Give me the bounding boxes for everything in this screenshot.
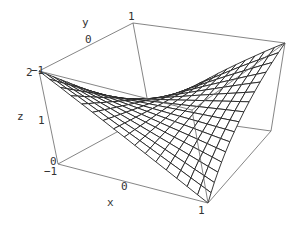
y-tick-0: 0 — [85, 33, 92, 46]
x-tick-0: 0 — [121, 180, 128, 193]
x-tick-minus1: −1 — [44, 165, 57, 178]
saddle-surface — [39, 43, 285, 203]
x-axis-label: x — [107, 196, 114, 209]
z-tick-2: 2 — [26, 66, 33, 79]
z-tick-1: 1 — [38, 114, 45, 127]
x-tick-1: 1 — [198, 204, 205, 217]
z-axis-label: z — [17, 110, 24, 123]
y-tick-1: 1 — [128, 10, 135, 23]
y-axis-label: y — [82, 16, 89, 29]
surface-plot: y 0 1 −1 2 z 1 0 −1 0 x 1 — [0, 0, 299, 229]
y-tick-minus1: −1 — [31, 64, 44, 77]
